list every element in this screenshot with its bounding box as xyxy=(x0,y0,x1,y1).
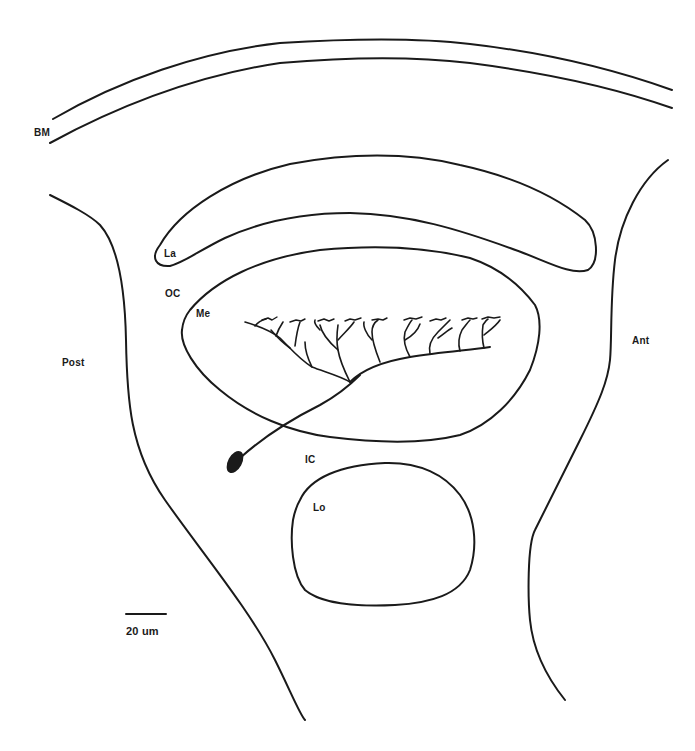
diagram-canvas: BM La OC Me Post Ant IC Lo 20 um xyxy=(0,0,695,751)
basement-membrane-inner xyxy=(50,58,672,143)
basement-membrane-outer xyxy=(53,39,672,119)
dendrite-tufts xyxy=(262,317,500,322)
medulla-outline xyxy=(182,247,540,441)
optic-lobe-drawing xyxy=(0,0,695,751)
label-me: Me xyxy=(196,309,210,319)
label-la: La xyxy=(164,249,176,259)
label-lo: Lo xyxy=(313,503,326,513)
label-post: Post xyxy=(62,358,84,368)
dendrite-trunk xyxy=(350,347,490,382)
anterior-boundary xyxy=(529,160,668,700)
scale-bar-label: 20 um xyxy=(126,626,159,637)
label-oc: OC xyxy=(165,289,180,299)
posterior-boundary xyxy=(50,195,305,720)
lobula-outline xyxy=(292,463,475,606)
label-ic: IC xyxy=(305,455,315,465)
lamina-outline xyxy=(155,156,596,271)
label-bm: BM xyxy=(34,128,50,138)
label-ant: Ant xyxy=(632,336,649,346)
neuron-soma xyxy=(223,448,247,476)
neuron-axon xyxy=(240,375,360,458)
